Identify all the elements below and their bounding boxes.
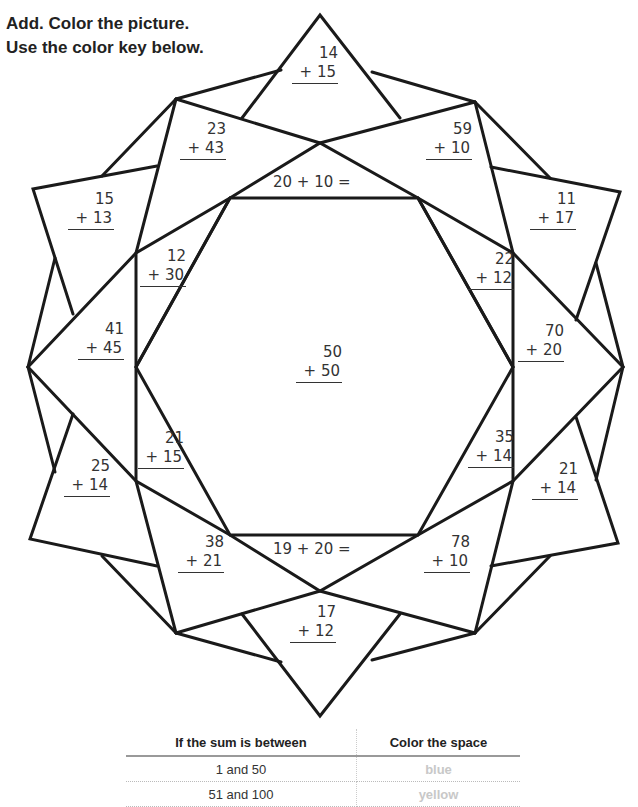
addition-problem-bottom: 17+ 12 <box>290 603 336 643</box>
header-color: Color the space <box>357 729 521 756</box>
range-cell: 51 and 100 <box>126 782 357 807</box>
color-key-row: 1 and 50 blue <box>126 756 520 782</box>
addition-problem-top: 14+ 15 <box>292 44 338 84</box>
addition-problem-far-lower-left: 25+ 14 <box>64 457 110 497</box>
addition-problem-left-point: 41+ 45 <box>78 320 124 360</box>
addition-problem-center: 50+ 50 <box>296 343 342 383</box>
addition-problem-right-lower-wedge: 35+ 14 <box>468 428 514 468</box>
color-cell: blue <box>357 756 521 782</box>
color-key-header-row: If the sum is between Color the space <box>126 729 520 756</box>
range-cell: 1 and 50 <box>126 756 357 782</box>
addition-problem-far-upper-left: 15+ 13 <box>68 190 114 230</box>
addition-problem-lower-left-inner: 38+ 21 <box>178 533 224 573</box>
color-key-row: 51 and 100 yellow <box>126 782 520 807</box>
addition-problem-far-lower-right: 21+ 14 <box>532 460 578 500</box>
addition-problem-right-point: 70+ 20 <box>518 322 564 362</box>
addition-problem-upper-right-inner: 59+ 10 <box>426 120 472 160</box>
addition-problem-upper-left-inner: 23+ 43 <box>180 120 226 160</box>
addition-problem-far-upper-right: 11+ 17 <box>530 190 576 230</box>
color-cell: yellow <box>357 782 521 807</box>
equation-bottom-band: 19 + 20 = <box>273 540 351 558</box>
color-key-table: If the sum is between Color the space 1 … <box>126 729 520 807</box>
equation-top-band: 20 + 10 = <box>273 173 351 191</box>
header-sum-range: If the sum is between <box>126 729 357 756</box>
addition-problem-right-upper-wedge: 22+ 12 <box>468 250 514 290</box>
addition-problem-lower-right-inner: 78+ 10 <box>424 533 470 573</box>
addition-problem-left-upper-wedge: 12+ 30 <box>140 247 186 287</box>
addition-problem-left-lower-wedge: 21+ 15 <box>138 429 184 469</box>
